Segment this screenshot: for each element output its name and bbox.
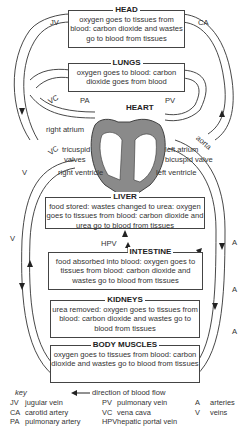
label-right-atrium: right atrium — [46, 125, 84, 134]
head-text: oxygen goes to tissues from blood: carbo… — [69, 15, 184, 43]
label-left-ventricle: left ventricle — [156, 168, 197, 177]
label-a3: A — [232, 327, 237, 336]
heart-shape — [91, 119, 165, 200]
label-tricuspid: tricuspid — [62, 145, 90, 154]
key-title: key — [15, 388, 27, 397]
label-a2: A — [232, 285, 237, 294]
intestine-box: INTESTINE food absorbed into blood: oxyg… — [48, 252, 203, 290]
label-pa: PA — [80, 96, 90, 105]
label-jv: JV — [50, 18, 59, 27]
label-hpv: HPV — [101, 239, 117, 248]
key-flow-label: direction of blood flow — [92, 388, 165, 397]
label-bicuspid: bicuspid valve — [165, 155, 213, 164]
muscles-text: oxygen goes to tissues from blood: carbo… — [51, 350, 199, 369]
key-col-1: JV jugular vein CA carotid artery PA pul… — [10, 398, 81, 427]
circulation-diagram: HEAD oxygen goes to tissues from blood: … — [0, 0, 251, 441]
kidneys-text: urea removed: oxygen goes to tissues fro… — [51, 305, 199, 333]
lungs-title: LUNGS — [111, 58, 143, 67]
kidneys-box: KIDNEYS urea removed: oxygen goes to tis… — [50, 300, 200, 338]
muscles-title: BODY MUSCLES — [91, 340, 159, 349]
label-left-atrium: left atrium — [165, 145, 198, 154]
label-pv: PV — [165, 96, 175, 105]
liver-title: LIVER — [111, 192, 139, 201]
key-col-3: A arteries V veins — [195, 398, 235, 417]
intestine-text: food absorbed into blood: oxygen goes to… — [49, 257, 202, 285]
label-valves: valves — [64, 155, 86, 164]
lungs-box: LUNGS oxygen goes to blood: carbon dioxi… — [68, 63, 185, 92]
label-a1: A — [232, 238, 237, 247]
label-right-ventricle: right ventricle — [58, 168, 103, 177]
muscles-box: BODY MUSCLES oxygen goes to tissues from… — [50, 345, 200, 383]
kidneys-title: KIDNEYS — [105, 295, 145, 304]
heart-title: HEART — [126, 103, 154, 112]
lungs-text: oxygen goes to blood: carbon dioxide goe… — [69, 68, 184, 87]
intestine-title: INTESTINE — [128, 247, 174, 256]
head-box: HEAD oxygen goes to tissues from blood: … — [68, 10, 185, 48]
liver-text: food stored: wastes changed to urea: oxy… — [46, 202, 204, 230]
key-col-2: PV pulmonary vein VC vena cava HPV hepat… — [102, 398, 177, 427]
label-ca: CA — [198, 18, 209, 27]
label-v2: V — [10, 234, 15, 243]
liver-box: LIVER food stored: wastes changed to ure… — [45, 197, 205, 229]
label-v1: V — [22, 168, 27, 177]
head-title: HEAD — [113, 5, 140, 14]
